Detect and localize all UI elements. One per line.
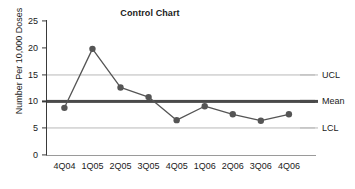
reference-line-stub-ucl xyxy=(300,74,318,75)
data-point xyxy=(145,94,151,100)
y-tick-label: 5 xyxy=(20,123,38,133)
data-point xyxy=(173,117,179,123)
data-point xyxy=(258,118,264,124)
y-tick-label: 25 xyxy=(20,16,38,26)
x-tick-label: 4Q04 xyxy=(53,161,75,171)
x-tick-label: 1Q06 xyxy=(194,161,216,171)
x-axis-line xyxy=(46,155,316,156)
x-tick-label: 1Q05 xyxy=(81,161,103,171)
reference-line-stub-lcl xyxy=(300,128,318,129)
series-line xyxy=(64,49,289,121)
x-tick-label: 4Q05 xyxy=(166,161,188,171)
x-tick-label: 4Q06 xyxy=(278,161,300,171)
data-point xyxy=(202,103,208,109)
reference-line-stub-mean xyxy=(300,100,318,102)
data-point xyxy=(117,84,123,90)
reference-line-label-lcl: LCL xyxy=(322,123,339,133)
x-tick-label: 3Q05 xyxy=(138,161,160,171)
data-point xyxy=(230,111,236,117)
y-tick-label: 10 xyxy=(20,96,38,106)
data-point xyxy=(286,111,292,117)
chart-title: Control Chart xyxy=(0,8,300,18)
x-tick-label: 3Q06 xyxy=(250,161,272,171)
plot-area xyxy=(47,21,315,155)
data-series xyxy=(47,21,315,155)
control-chart: Control Chart Number Per 10,000 Doses 05… xyxy=(0,0,355,189)
data-point xyxy=(89,46,95,52)
y-tick-label: 20 xyxy=(20,43,38,53)
reference-line-label-ucl: UCL xyxy=(322,70,340,80)
y-tick-label: 15 xyxy=(20,70,38,80)
x-tick-label: 2Q05 xyxy=(110,161,132,171)
reference-line-label-mean: Mean xyxy=(322,96,345,106)
y-tick-label: 0 xyxy=(20,150,38,160)
x-tick-label: 2Q06 xyxy=(222,161,244,171)
data-point xyxy=(61,105,67,111)
